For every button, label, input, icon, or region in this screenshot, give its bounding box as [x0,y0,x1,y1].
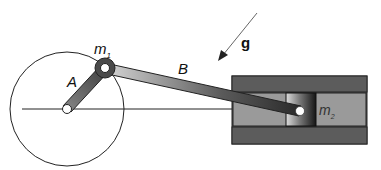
label-m2: m2 [319,102,335,120]
slider-crank-diagram: m1 A B g m2 [0,0,381,170]
gravity-arrow-icon [218,13,257,61]
joint-m1-pin [101,64,110,73]
label-m1: m1 [94,40,111,60]
crank-pivot [63,105,72,114]
label-gravity: g [241,34,250,51]
label-crank-a: A [67,73,77,90]
mechanism-drawing [0,0,381,170]
slider-pin [296,107,305,116]
label-rod-b: B [178,60,188,77]
